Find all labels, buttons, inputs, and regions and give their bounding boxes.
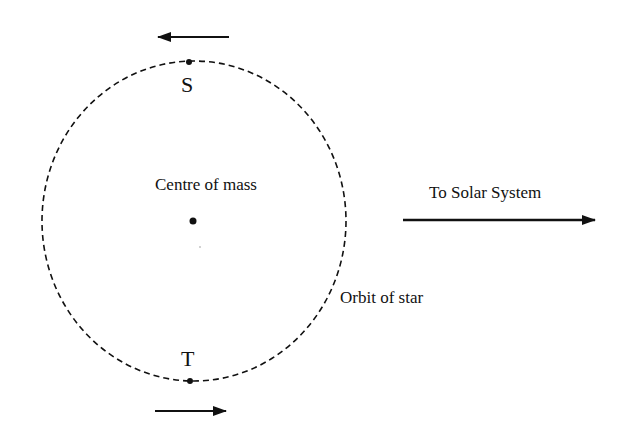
label-centre-of-mass: Centre of mass [155,175,257,195]
point-s-dot [186,59,192,65]
speck [199,246,201,248]
label-to-solar-system: To Solar System [429,183,541,203]
label-t: T [181,346,194,372]
centre-of-mass-dot [190,218,197,225]
point-t-dot [187,378,193,384]
label-orbit-of-star: Orbit of star [340,288,423,308]
orbit-diagram [0,0,626,433]
label-s: S [181,72,193,98]
